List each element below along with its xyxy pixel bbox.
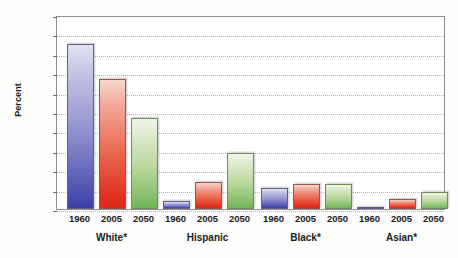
x-year-label: 2005 — [385, 213, 419, 224]
bar-asian-1960[interactable] — [357, 207, 384, 210]
x-year-label: 2005 — [289, 213, 323, 224]
bar-hispanic-2050[interactable] — [227, 153, 254, 209]
x-year-label: 2005 — [95, 213, 129, 224]
bar-black-2050[interactable] — [325, 184, 352, 209]
plot-area — [56, 16, 445, 210]
x-group-label: White* — [57, 232, 167, 243]
x-year-label: 2050 — [127, 213, 161, 224]
y-axis-title: Percent — [13, 65, 23, 135]
bar-chart: Percent 0102030405060708090100 196020052… — [0, 0, 458, 258]
x-year-label: 2050 — [417, 213, 451, 224]
x-year-label: 1960 — [257, 213, 291, 224]
bar-hispanic-1960[interactable] — [163, 201, 190, 209]
x-group-label: Hispanic — [153, 232, 263, 243]
x-year-label: 1960 — [159, 213, 193, 224]
bar-asian-2005[interactable] — [389, 199, 416, 209]
x-group-label: Black* — [251, 232, 361, 243]
bar-black-2005[interactable] — [293, 184, 320, 209]
bars-layer — [57, 17, 444, 209]
bar-white-2005[interactable] — [99, 79, 126, 209]
x-year-label: 2050 — [321, 213, 355, 224]
bar-white-2050[interactable] — [131, 118, 158, 209]
x-group-label: Asian* — [347, 232, 457, 243]
x-year-label: 1960 — [63, 213, 97, 224]
bar-black-1960[interactable] — [261, 188, 288, 209]
bar-hispanic-2005[interactable] — [195, 182, 222, 209]
x-year-label: 2050 — [223, 213, 257, 224]
x-year-label: 2005 — [191, 213, 225, 224]
x-year-label: 1960 — [353, 213, 387, 224]
bar-asian-2050[interactable] — [421, 192, 448, 209]
x-axis: 196020052050White*196020052050Hispanic19… — [56, 212, 445, 258]
bar-white-1960[interactable] — [67, 44, 94, 209]
